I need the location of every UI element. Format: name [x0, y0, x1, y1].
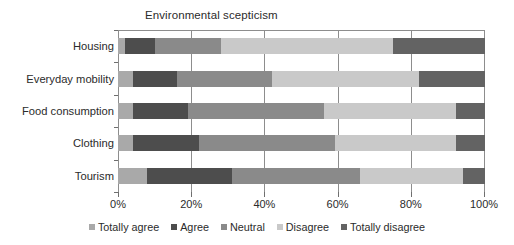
x-axis-label: 80%: [400, 198, 422, 210]
x-axis-tick: [191, 192, 192, 197]
bar-row[interactable]: [118, 38, 485, 54]
x-axis: 0%20%40%60%80%100%: [118, 192, 485, 214]
bar-segment[interactable]: [272, 71, 419, 87]
bar-row[interactable]: [118, 103, 485, 119]
chart-container: Environmental scepticism HousingEveryday…: [0, 0, 514, 245]
x-axis-label: 0%: [110, 198, 126, 210]
legend-swatch-icon: [171, 224, 177, 230]
x-axis-tick: [338, 192, 339, 197]
chart-legend: Totally agreeAgreeNeutralDisagreeTotally…: [0, 221, 514, 233]
x-axis-label: 100%: [470, 198, 498, 210]
plot-area: [118, 30, 485, 192]
bar-row[interactable]: [118, 168, 485, 184]
bar-segment[interactable]: [118, 135, 133, 151]
bar-segment[interactable]: [133, 103, 188, 119]
legend-item[interactable]: Neutral: [221, 221, 265, 233]
bar-segment[interactable]: [324, 103, 456, 119]
legend-label: Disagree: [286, 221, 329, 233]
legend-label: Totally disagree: [350, 221, 425, 233]
bar-segment[interactable]: [133, 135, 199, 151]
x-axis-tick: [264, 192, 265, 197]
bar-segment[interactable]: [177, 71, 272, 87]
bar-segment[interactable]: [199, 135, 335, 151]
bar-segment[interactable]: [147, 168, 231, 184]
bar-segment[interactable]: [232, 168, 360, 184]
bar-row[interactable]: [118, 135, 485, 151]
legend-label: Totally agree: [98, 221, 159, 233]
bar-segment[interactable]: [133, 71, 177, 87]
bar-segment[interactable]: [335, 135, 456, 151]
bar-segment[interactable]: [125, 38, 154, 54]
bar-segment[interactable]: [456, 135, 485, 151]
x-axis-label: 60%: [327, 198, 349, 210]
legend-label: Agree: [180, 221, 209, 233]
y-axis-label: Everyday mobility: [2, 73, 114, 85]
y-axis-label: Housing: [2, 40, 114, 52]
x-axis-label: 40%: [253, 198, 275, 210]
bar-segment[interactable]: [456, 103, 485, 119]
legend-item[interactable]: Agree: [171, 221, 209, 233]
bar-segment[interactable]: [393, 38, 485, 54]
legend-swatch-icon: [341, 224, 347, 230]
legend-swatch-icon: [277, 224, 283, 230]
bar-segment[interactable]: [118, 38, 125, 54]
legend-item[interactable]: Totally agree: [89, 221, 159, 233]
bar-segment[interactable]: [118, 103, 133, 119]
legend-swatch-icon: [221, 224, 227, 230]
bar-segment[interactable]: [188, 103, 324, 119]
bar-segment[interactable]: [221, 38, 393, 54]
legend-item[interactable]: Totally disagree: [341, 221, 425, 233]
bar-segment[interactable]: [419, 71, 485, 87]
x-axis-tick: [484, 192, 485, 197]
legend-swatch-icon: [89, 224, 95, 230]
bar-segment[interactable]: [155, 38, 221, 54]
y-axis-labels: HousingEveryday mobilityFood consumption…: [0, 30, 114, 192]
legend-item[interactable]: Disagree: [277, 221, 329, 233]
legend-label: Neutral: [230, 221, 265, 233]
bar-row[interactable]: [118, 71, 485, 87]
bar-segment[interactable]: [360, 168, 463, 184]
y-axis-label: Tourism: [2, 170, 114, 182]
chart-title: Environmental scepticism: [145, 9, 278, 21]
bar-segment[interactable]: [118, 71, 133, 87]
y-axis-label: Food consumption: [2, 105, 114, 117]
x-axis-tick: [118, 192, 119, 197]
x-axis-tick: [411, 192, 412, 197]
bar-segment[interactable]: [118, 168, 147, 184]
bar-segment[interactable]: [463, 168, 485, 184]
y-axis-label: Clothing: [2, 137, 114, 149]
x-axis-label: 20%: [180, 198, 202, 210]
